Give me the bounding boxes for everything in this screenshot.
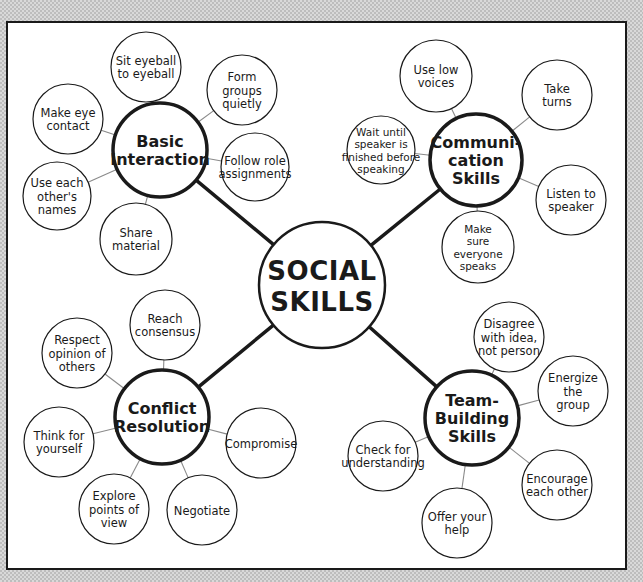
leaf-node: Follow roleassignments <box>219 133 292 201</box>
leaf-label-line: Offer your <box>428 510 487 524</box>
leaf-link <box>415 436 429 442</box>
leaf-label-line: quietly <box>222 97 262 111</box>
leaf-label-line: Use low <box>414 63 459 77</box>
hub-label-line: Team- <box>445 391 499 410</box>
leaf-node: Disagreewith idea,not person <box>474 302 544 372</box>
root-link-team-building-skills <box>369 327 437 387</box>
leaf-label-line: Disagree <box>483 317 534 331</box>
leaf-node: Sit eyeballto eyeball <box>111 32 181 102</box>
leaf-node: Make eyecontact <box>33 84 103 154</box>
root-label-line: SOCIAL <box>267 256 376 286</box>
leaf-label-line: Reach <box>147 312 182 326</box>
hub-node-team-building-skills: Team-BuildingSkills <box>425 371 519 465</box>
leaf-link <box>518 178 538 187</box>
leaf-label: Encourageeach other <box>526 472 588 500</box>
hub-label: ConflictResolution <box>114 399 210 436</box>
root-node: SOCIALSKILLS <box>259 222 385 348</box>
leaf-label-line: Form <box>228 70 257 84</box>
leaf-label: Compromise <box>225 437 298 451</box>
hub-label-line: Interaction <box>110 150 210 169</box>
leaf-label-line: Take <box>543 82 570 96</box>
leaf-label: Think foryourself <box>33 429 85 457</box>
leaf-node: Compromise <box>225 408 298 478</box>
leaf-label-line: contact <box>46 119 90 133</box>
leaf-label-line: finished before <box>342 151 421 163</box>
leaf-label-line: Sit eyeball <box>116 54 176 68</box>
leaf-label-line: Compromise <box>225 437 298 451</box>
hub-label-line: Conflict <box>128 399 197 418</box>
leaf-link <box>517 400 539 406</box>
leaf-label-line: understanding <box>341 456 425 470</box>
hub-node-basic-interaction: BasicInteraction <box>110 103 210 197</box>
hub-node-conflict-resolution: ConflictResolution <box>114 370 210 464</box>
leaf-node: Offer yourhelp <box>422 488 492 558</box>
leaf-node: Listen tospeaker <box>536 165 606 235</box>
leaf-label-line: other's <box>37 190 77 204</box>
leaf-node: Sharematerial <box>100 203 172 275</box>
leaf-label-line: to eyeball <box>118 67 175 81</box>
leaf-label-line: Check for <box>356 443 411 457</box>
hub-label-line: Skills <box>448 427 496 446</box>
leaf-label-line: consensus <box>135 325 195 339</box>
leaf-link <box>462 465 465 489</box>
leaf-link <box>130 459 140 478</box>
leaf-label-line: voices <box>418 76 454 90</box>
leaf-label-line: opinion of <box>48 347 106 361</box>
leaf-node: Explorepoints ofview <box>79 474 149 544</box>
leaf-link <box>105 374 124 389</box>
leaf-label-line: everyone <box>453 248 502 260</box>
leaf-link <box>512 117 530 131</box>
leaf-label-line: each other <box>526 485 588 499</box>
leaf-label-line: turns <box>542 95 572 109</box>
hub-label-line: Communi- <box>431 133 522 152</box>
leaf-link <box>93 428 116 434</box>
leaf-label-line: speaker <box>548 200 594 214</box>
leaf-label-line: yourself <box>36 442 83 456</box>
social-skills-concept-map: SOCIALSKILLSBasicInteractionSit eyeballt… <box>0 0 643 582</box>
leaf-link <box>101 130 115 135</box>
leaf-label-line: Listen to <box>546 187 596 201</box>
root-link-conflict-resolution <box>198 325 273 387</box>
leaf-label-line: Respect <box>54 333 100 347</box>
leaf-label-line: the <box>564 385 583 399</box>
hub-node-communication-skills: Communi-cationSkills <box>430 114 522 206</box>
leaf-label-line: Make <box>464 223 492 235</box>
leaf-link <box>88 169 117 182</box>
leaf-label-line: Wait until <box>356 126 406 138</box>
root-label: SOCIALSKILLS <box>267 256 376 317</box>
leaf-label-line: Use each <box>31 176 84 190</box>
leaf-node: Reachconsensus <box>130 290 200 360</box>
leaf-label-line: points of <box>89 503 140 517</box>
hub-label-line: Basic <box>136 132 183 151</box>
leaf-node: Formgroupsquietly <box>207 55 277 125</box>
leaf-label-line: Follow role <box>224 154 286 168</box>
leaf-label: Taketurns <box>542 82 572 110</box>
leaf-label-line: groups <box>222 84 261 98</box>
leaf-label-line: Negotiate <box>174 504 230 518</box>
leaf-node: Wait untilspeaker isfinished beforespeak… <box>342 116 421 184</box>
leaf-label-line: Make eye <box>41 106 96 120</box>
leaf-node: Use eachother'snames <box>23 162 91 230</box>
leaf-node: Check forunderstanding <box>341 421 425 491</box>
hub-label-line: cation <box>448 151 504 170</box>
leaf-link <box>198 111 214 123</box>
leaf-label-line: Share <box>119 226 152 240</box>
hub-label-line: Skills <box>452 169 500 188</box>
leaf-link <box>509 447 530 463</box>
leaf-label-line: group <box>556 398 589 412</box>
root-label-line: SKILLS <box>270 287 373 317</box>
leaf-label: Use eachother'snames <box>31 176 84 217</box>
leaf-label-line: names <box>38 203 77 217</box>
leaf-label: Sit eyeballto eyeball <box>116 54 176 82</box>
leaf-label: Use lowvoices <box>414 63 459 91</box>
leaf-node: Use lowvoices <box>400 40 472 112</box>
leaf-node: Respectopinion ofothers <box>42 318 112 388</box>
leaf-label-line: view <box>101 516 127 530</box>
leaf-label-line: help <box>445 523 470 537</box>
leaf-label-line: Energize <box>548 371 598 385</box>
leaf-label: Negotiate <box>174 504 230 518</box>
leaf-label-line: speaks <box>460 260 497 272</box>
hub-label-line: Resolution <box>114 417 210 436</box>
leaf-node: Energizethegroup <box>538 356 608 426</box>
leaf-label-line: Encourage <box>526 472 587 486</box>
